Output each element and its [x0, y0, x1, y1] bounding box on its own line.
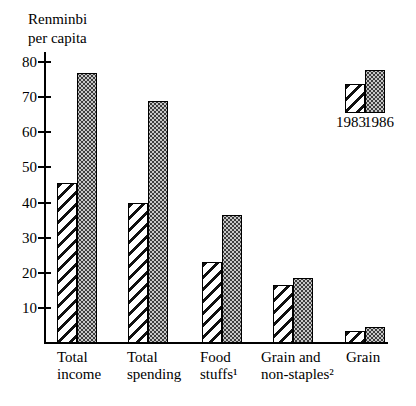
category-label-3: Grain andnon-staples² [261, 349, 334, 382]
category-label-line: spending [127, 366, 181, 383]
category-label-line: Grain [346, 349, 380, 366]
category-label-line: income [57, 366, 101, 383]
y-tick-label-30: 30 [1, 229, 37, 247]
bar-1983-group-0 [57, 183, 77, 343]
bar-1983-group-2 [202, 262, 222, 343]
category-label-line: non-staples² [261, 366, 334, 383]
y-tick-label-50: 50 [1, 158, 37, 176]
legend-swatch-1986 [365, 70, 385, 113]
y-tick-60 [38, 131, 51, 133]
category-label-0: Totalincome [57, 349, 101, 382]
category-label-1: Totalspending [127, 349, 181, 382]
bar-1983-group-1 [128, 203, 148, 344]
y-tick-label-20: 20 [1, 264, 37, 282]
y-tick-label-80: 80 [1, 53, 37, 71]
y-tick-30 [38, 237, 51, 239]
legend-swatch-1983 [345, 84, 365, 113]
y-tick-label-10: 10 [1, 299, 37, 317]
category-label-line: stuffs¹ [200, 366, 238, 383]
chart-title-line-1: Renminbi [28, 10, 87, 29]
category-label-line: Total [127, 349, 181, 366]
bar-1986-group-3 [293, 278, 313, 343]
chart-title-line-2: per capita [28, 29, 87, 48]
bar-chart-figure: Renminbi per capita 1020304050607080Tota… [0, 0, 416, 406]
category-label-4: Grain [346, 349, 380, 366]
category-label-line: Total [57, 349, 101, 366]
bar-1986-group-4 [365, 327, 385, 343]
bar-1986-group-2 [222, 215, 242, 343]
y-tick-40 [38, 202, 51, 204]
category-label-2: Foodstuffs¹ [200, 349, 238, 382]
y-tick-20 [38, 272, 51, 274]
y-tick-50 [38, 166, 51, 168]
legend-label-1986: 1986 [357, 114, 401, 131]
y-tick-10 [38, 307, 51, 309]
y-tick-label-40: 40 [1, 194, 37, 212]
chart-title: Renminbi per capita [28, 10, 87, 48]
y-tick-label-60: 60 [1, 123, 37, 141]
y-tick-80 [38, 61, 51, 63]
bar-1986-group-1 [148, 101, 168, 343]
category-label-line: Grain and [261, 349, 334, 366]
y-tick-70 [38, 96, 51, 98]
category-label-line: Food [200, 349, 238, 366]
y-tick-label-70: 70 [1, 88, 37, 106]
bar-1983-group-3 [273, 285, 293, 343]
bar-1986-group-0 [77, 73, 97, 343]
bar-1983-group-4 [345, 331, 365, 343]
